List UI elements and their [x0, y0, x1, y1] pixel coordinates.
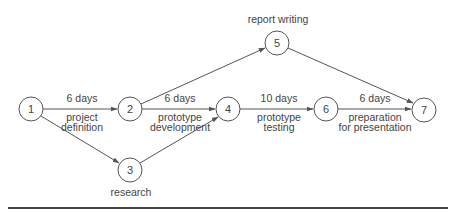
edge-4-6-activity-line2: testing [264, 121, 295, 133]
node-3-label: 3 [127, 164, 133, 176]
edge-2-4-activity-line2: development [150, 121, 210, 133]
node-3-caption: research [111, 186, 152, 198]
bottom-rule [8, 207, 448, 209]
node-1-label: 1 [28, 103, 34, 115]
edge-6-7-activity-line2: for presentation [339, 121, 412, 133]
node-6-label: 6 [323, 103, 329, 115]
edge-4-6-duration: 10 days [261, 92, 298, 104]
node-2-label: 2 [127, 103, 133, 115]
edge-5-7 [288, 48, 413, 103]
node-4-label: 4 [225, 103, 231, 115]
edge-1-2-activity-line2: definition [61, 121, 103, 133]
edge-6-7-duration: 6 days [360, 92, 391, 104]
activity-network-diagram: 1 2 3 4 5 6 7 6 days project definition … [0, 0, 454, 212]
node-5-label: 5 [274, 37, 280, 49]
node-5-caption: report writing [248, 13, 309, 25]
node-7-label: 7 [421, 104, 427, 116]
edge-1-2-duration: 6 days [67, 92, 98, 104]
edge-2-4-duration: 6 days [165, 92, 196, 104]
edge-2-5 [141, 48, 265, 104]
